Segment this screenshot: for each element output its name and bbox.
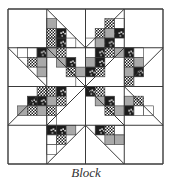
- patch-gray: [47, 96, 57, 106]
- patch-black: [124, 106, 134, 116]
- patch-black: [56, 28, 66, 38]
- patch-black: [95, 57, 105, 67]
- patch-black: [37, 96, 47, 106]
- patch-white: [47, 135, 57, 145]
- patch-black: [47, 125, 57, 135]
- patch-gray: [37, 57, 47, 67]
- patch-white: [27, 48, 37, 58]
- patch-gray: [134, 57, 144, 67]
- patch-check: [47, 106, 57, 116]
- figure-caption: Block: [0, 165, 172, 181]
- patch-gray: [124, 67, 134, 77]
- patch-gray: [105, 135, 115, 145]
- patch-white: [18, 48, 28, 58]
- patch-gray: [37, 67, 47, 77]
- patch-black: [95, 48, 105, 58]
- patch-black: [86, 67, 96, 77]
- patch-check: [27, 57, 37, 67]
- patch-black: [105, 38, 115, 48]
- patch-black: [37, 48, 47, 58]
- patch-gray: [47, 19, 57, 29]
- patch-white: [115, 19, 125, 29]
- patch-check: [56, 135, 66, 145]
- patch-gray: [124, 96, 134, 106]
- patch-black: [124, 48, 134, 58]
- patch-gray: [105, 28, 115, 38]
- patch-gray: [115, 135, 125, 145]
- patch-white: [115, 125, 125, 135]
- patch-check: [105, 125, 115, 135]
- patch-black: [95, 125, 105, 135]
- patch-black: [56, 87, 66, 97]
- patch-black: [56, 125, 66, 135]
- patch-check: [47, 87, 57, 97]
- patch-check: [95, 87, 105, 97]
- patch-gray: [115, 106, 125, 116]
- patch-white: [66, 38, 76, 48]
- patch-check: [56, 96, 66, 106]
- patch-black: [105, 96, 115, 106]
- patch-black: [115, 28, 125, 38]
- patch-white: [134, 106, 144, 116]
- patch-check: [56, 48, 66, 58]
- patch-gray: [95, 38, 105, 48]
- patch-check: [124, 57, 134, 67]
- patch-black: [66, 57, 76, 67]
- grid-lines-layer: [8, 9, 163, 164]
- patch-gray: [66, 125, 76, 135]
- patch-gray: [86, 57, 96, 67]
- patch-check: [105, 48, 115, 58]
- patch-white: [47, 145, 57, 155]
- patch-gray: [37, 106, 47, 116]
- patch-check: [47, 38, 57, 48]
- patch-black: [56, 38, 66, 48]
- quilt-block-diagram: [0, 0, 172, 166]
- patch-check: [47, 28, 57, 38]
- patch-gray: [76, 67, 86, 77]
- patch-white: [134, 48, 144, 58]
- patch-check: [27, 106, 37, 116]
